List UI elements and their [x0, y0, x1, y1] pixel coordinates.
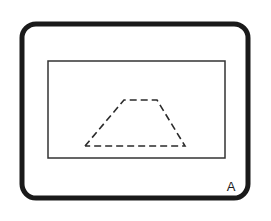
panel-label: A	[227, 179, 236, 194]
figure-container: A	[0, 0, 271, 221]
figure-canvas: A	[0, 0, 271, 221]
